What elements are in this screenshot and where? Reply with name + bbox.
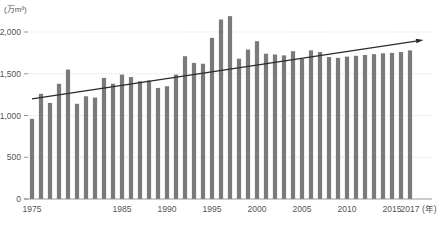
x-axis-tick-label-1990: 1990: [158, 204, 177, 214]
bar-1992: [183, 56, 187, 199]
trend-line: [32, 41, 416, 99]
bar-1985: [120, 75, 124, 199]
x-axis-tick-label-2005: 2005: [293, 204, 312, 214]
bar-2016: [399, 52, 403, 199]
bar-1990: [165, 86, 169, 199]
bar-1998: [237, 59, 241, 199]
bars-group: [30, 16, 412, 199]
x-axis-tick-label-2015: 2015: [383, 204, 402, 214]
bar-2014: [381, 53, 385, 199]
bar-1996: [219, 19, 223, 199]
trend-arrowhead: [416, 39, 424, 43]
x-axis-unit-label: (年): [422, 204, 437, 214]
bar-2011: [354, 56, 358, 199]
bar-1975: [30, 119, 34, 199]
bar-2002: [273, 55, 277, 199]
bar-2003: [282, 55, 286, 199]
bar-2005: [300, 59, 304, 199]
bar-2013: [372, 54, 376, 199]
bar-1978: [57, 84, 61, 199]
x-axis-tick-label-2017: 2017: [401, 204, 420, 214]
x-axis-tick-label-2010: 2010: [338, 204, 357, 214]
bar-chart: 05001,0001,5002,000(万m³)1975198519901995…: [0, 0, 446, 226]
labels-group: 05001,0001,5002,000(万m³)1975198519901995…: [0, 5, 437, 214]
bar-2008: [327, 57, 331, 199]
bar-1997: [228, 16, 232, 199]
x-axis-tick-label-1995: 1995: [203, 204, 222, 214]
bar-1987: [138, 81, 142, 199]
y-axis-tick-label-2000: 2,000: [0, 27, 21, 37]
bar-1982: [93, 98, 97, 199]
bar-2007: [318, 52, 322, 199]
bar-1988: [147, 80, 151, 199]
y-axis-tick-label-0: 0: [16, 194, 21, 204]
y-axis-unit-label: (万m³): [4, 5, 27, 14]
bar-2009: [336, 58, 340, 199]
y-axis-tick-label-500: 500: [7, 152, 21, 162]
x-axis-tick-label-1985: 1985: [113, 204, 132, 214]
bar-2015: [390, 53, 394, 199]
bar-1989: [156, 88, 160, 199]
bar-2004: [291, 51, 295, 199]
bar-1995: [210, 38, 214, 199]
chart-container: 05001,0001,5002,000(万m³)1975198519901995…: [0, 0, 446, 226]
bar-2010: [345, 57, 349, 199]
bar-1991: [174, 75, 178, 199]
bar-1976: [39, 94, 43, 199]
bar-2001: [264, 54, 268, 199]
y-axis-tick-label-1000: 1,000: [0, 111, 21, 121]
bar-1981: [84, 96, 88, 199]
bar-1983: [102, 78, 106, 199]
bar-1979: [66, 70, 70, 199]
bar-1993: [192, 63, 196, 199]
x-axis-tick-label-1975: 1975: [23, 204, 42, 214]
y-axis-tick-label-1500: 1,500: [0, 69, 21, 79]
bar-2017: [408, 50, 412, 199]
bar-1994: [201, 64, 205, 199]
bar-1980: [75, 104, 79, 199]
x-axis-tick-label-2000: 2000: [248, 204, 267, 214]
bar-1999: [246, 50, 250, 199]
bar-1984: [111, 84, 115, 199]
bar-2006: [309, 50, 313, 199]
bar-1986: [129, 77, 133, 199]
bar-1977: [48, 103, 52, 199]
bar-2012: [363, 55, 367, 199]
